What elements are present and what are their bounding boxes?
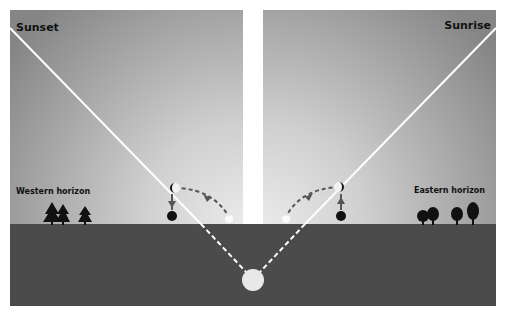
sun-icon: [242, 269, 264, 291]
eastern-horizon-label: Eastern horizon: [414, 186, 485, 195]
sunset-small-moon-icon: [225, 215, 233, 223]
western-horizon-label: Western horizon: [16, 187, 90, 196]
sunset-title: Sunset: [16, 21, 59, 34]
sunrise-small-moon-icon: [282, 215, 290, 223]
diagram-canvas: Sunset Sunrise Western horizon Eastern h…: [0, 0, 506, 316]
sunset-new-moon-icon: [167, 211, 177, 221]
diagram-svg: [0, 0, 506, 316]
sunrise-new-moon-icon: [336, 211, 346, 221]
sunrise-title: Sunrise: [444, 19, 491, 32]
ground: [10, 224, 496, 306]
